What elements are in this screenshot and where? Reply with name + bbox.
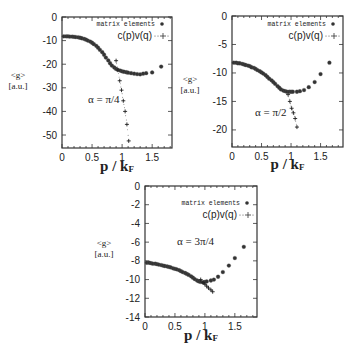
x-tick-label: 1.5 [314, 151, 328, 162]
x-tick-label: 0.5 [255, 151, 269, 162]
y-tick-label: -50 [43, 130, 58, 141]
y-tick-label: 0 [134, 181, 140, 192]
line-dot [294, 114, 295, 115]
legend-dot [240, 215, 241, 216]
y-tick-label: -40 [43, 106, 58, 117]
alpha-annotation: α = π/4 [88, 93, 120, 105]
y-tick-label: -12 [126, 293, 141, 304]
x-axis-label: p / kF [184, 327, 218, 343]
data-point [216, 275, 220, 279]
y-tick-label: -8 [131, 255, 140, 266]
y-axis-unit: [a.u.] [95, 249, 114, 259]
y-tick-label: -14 [126, 312, 141, 323]
line-dot [128, 135, 129, 136]
data-point [221, 270, 225, 274]
y-tick-label: -30 [43, 82, 58, 93]
line-dot [123, 104, 124, 105]
x-axis-label: p / kF [271, 156, 305, 172]
x-tick-label: 0 [59, 152, 65, 163]
legend-dot [158, 36, 159, 37]
legend-matrix-elements: matrix elements [181, 200, 240, 207]
x-tick-label: 0.5 [85, 152, 99, 163]
y-tick-label: -10 [213, 67, 228, 78]
line-dot [125, 115, 126, 116]
data-point [227, 264, 231, 268]
legend-dot [168, 36, 169, 37]
alpha-annotation: α = 3π/4 [177, 235, 215, 247]
line-dot [292, 109, 293, 110]
line-dot [124, 107, 125, 108]
y-tick-label: -20 [43, 59, 58, 70]
line-dot [290, 103, 291, 104]
y-axis-label: <g> [11, 70, 26, 80]
line-dot [126, 120, 127, 121]
data-point [307, 85, 311, 89]
legend-cpvq: c(p)v(q) [289, 30, 323, 41]
data-point [212, 278, 216, 282]
data-point [319, 72, 323, 76]
line-dot [119, 77, 120, 78]
y-tick-label: 0 [221, 11, 227, 22]
line-dot [202, 281, 203, 282]
y-tick-label: -4 [131, 218, 140, 229]
line-dot [295, 121, 296, 122]
line-dot [127, 129, 128, 130]
x-axis-label: p / kF [100, 158, 134, 174]
legend-cpvq: c(p)v(q) [118, 30, 152, 41]
legend-dot [243, 215, 244, 216]
legend-matrix-elements: matrix elements [96, 21, 155, 28]
y-tick-label: -10 [126, 274, 141, 285]
data-point [302, 88, 306, 92]
data-point [144, 71, 148, 75]
y-axis-unit: [a.u.] [9, 81, 28, 91]
legend-dot [326, 36, 327, 37]
y-axis-unit: [a.u.] [181, 85, 200, 95]
legend-cpvq: c(p)v(q) [203, 209, 237, 220]
legend-dot [339, 36, 340, 37]
series-matrix-elements [145, 245, 246, 284]
figure: 00.511.50-10-20-30-40-50<g>[a.u.]p / kFm… [0, 0, 349, 362]
legend-dot [329, 36, 330, 37]
legend-dot [155, 36, 156, 37]
alpha-annotation: α = π/2 [255, 106, 287, 118]
y-axis-label: <g> [183, 74, 198, 84]
line-dot [118, 73, 119, 74]
data-point [159, 65, 163, 69]
line-dot [117, 66, 118, 67]
line-dot [291, 105, 292, 106]
y-tick-label: -2 [131, 199, 140, 210]
plot-alpha-3pi-over-4: 00.511.50-2-4-6-8-10-12-14<g>[a.u.]p / k… [95, 181, 258, 344]
series-cpvq [286, 93, 299, 129]
data-point [205, 280, 209, 284]
x-tick-label: 1.5 [145, 152, 159, 163]
line-dot [289, 99, 290, 100]
legend-dot [253, 215, 254, 216]
y-tick-label: 0 [51, 12, 57, 23]
y-tick-label: -6 [131, 237, 140, 248]
data-point [291, 90, 295, 94]
line-dot [120, 83, 121, 84]
line-dot [116, 63, 117, 64]
y-tick-label: -10 [43, 35, 58, 46]
y-tick-label: -5 [218, 39, 227, 50]
legend-matrix-elements: matrix elements [267, 21, 326, 28]
line-dot [288, 96, 289, 97]
y-tick-label: -20 [213, 124, 228, 135]
plot-alpha-pi-over-4: 00.511.50-10-20-30-40-50<g>[a.u.]p / kFm… [9, 12, 173, 175]
x-tick-label: 0 [229, 151, 235, 162]
data-point [328, 61, 332, 65]
x-tick-label: 0 [142, 321, 148, 332]
line-dot [209, 288, 210, 289]
line-dot [201, 280, 202, 281]
series-matrix-elements [232, 61, 331, 94]
x-tick-label: 1.5 [228, 321, 242, 332]
legend-circle-marker [245, 201, 249, 205]
x-tick-label: 0.5 [168, 321, 182, 332]
data-point [242, 245, 246, 249]
legend-circle-marker [160, 22, 164, 26]
data-point [313, 80, 317, 84]
y-axis-label: <g> [97, 238, 112, 248]
line-dot [122, 97, 123, 98]
plot-alpha-pi-over-2: 00.511.50-5-10-15-20<g>[a.u.]p / kFmatri… [181, 11, 344, 173]
legend-circle-marker [331, 22, 335, 26]
